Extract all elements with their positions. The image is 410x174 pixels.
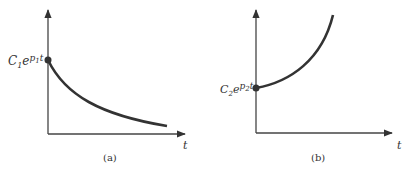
caption-b: (b): [311, 152, 325, 163]
decay-curve: [48, 60, 167, 126]
panel-b: C2ep2t t (b): [220, 10, 402, 163]
growth-curve: [256, 15, 333, 88]
x-axis-label-b: t: [397, 139, 402, 152]
initial-value-label-a: C1ep1t: [8, 53, 44, 70]
figure-canvas: C1ep1t t (a) C2ep2t t (b): [0, 0, 410, 174]
initial-point-a: [45, 57, 52, 64]
panel-a: C1ep1t t (a): [8, 10, 188, 163]
initial-point-b: [253, 85, 260, 92]
x-axis-label-a: t: [183, 139, 188, 152]
initial-value-label-b: C2ep2t: [220, 81, 254, 98]
caption-a: (a): [103, 152, 117, 163]
